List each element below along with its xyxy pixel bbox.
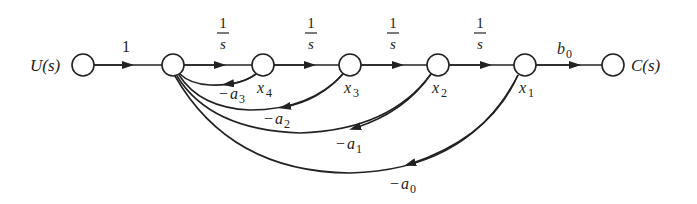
svg-text:2: 2 <box>284 117 290 131</box>
gain-input: 1 <box>122 38 130 55</box>
input-label: U(s) <box>30 56 61 75</box>
node-x3 <box>339 54 361 76</box>
output-label: C(s) <box>631 56 661 75</box>
svg-text:1: 1 <box>356 142 362 156</box>
svg-text:a: a <box>275 110 283 127</box>
integrator-labels: 1 s 1 s 1 s 1 s <box>217 15 486 52</box>
svg-text:s: s <box>308 36 314 52</box>
svg-text:1: 1 <box>219 15 227 31</box>
feedback-label-a0: − a 0 <box>390 175 416 196</box>
svg-text:0: 0 <box>566 47 572 61</box>
state-labels: x 4 x 3 x 2 x 1 <box>256 79 534 100</box>
diagram-canvas: U(s) C(s) 1 1 s 1 s 1 s 1 s b 0 <box>0 0 697 204</box>
node-x2 <box>427 54 449 76</box>
svg-text:x: x <box>431 79 439 96</box>
svg-text:a: a <box>401 175 409 192</box>
state-x4: x 4 <box>256 79 272 100</box>
svg-text:s: s <box>390 36 396 52</box>
svg-text:b: b <box>557 40 565 57</box>
svg-text:1: 1 <box>307 15 315 31</box>
svg-text:−: − <box>390 175 399 192</box>
state-x3: x 3 <box>343 79 359 100</box>
svg-text:−: − <box>219 85 228 102</box>
svg-text:x: x <box>518 79 526 96</box>
node-x1 <box>514 54 536 76</box>
svg-text:3: 3 <box>239 92 245 106</box>
svg-text:a: a <box>230 85 238 102</box>
feedback-labels: − a 3 − a 2 − a 1 − a 0 <box>219 85 416 196</box>
svg-text:s: s <box>220 36 226 52</box>
node-output <box>602 54 624 76</box>
state-x1: x 1 <box>518 79 534 100</box>
svg-text:2: 2 <box>441 86 447 100</box>
signal-flow-graph: U(s) C(s) 1 1 s 1 s 1 s 1 s b 0 <box>0 0 697 204</box>
feedback-label-a2: − a 2 <box>264 110 290 131</box>
output-gain-label: b 0 <box>557 40 572 61</box>
svg-text:−: − <box>336 135 345 152</box>
svg-text:−: − <box>264 110 273 127</box>
svg-text:x: x <box>343 79 351 96</box>
svg-text:3: 3 <box>353 86 359 100</box>
svg-text:1: 1 <box>528 86 534 100</box>
svg-text:0: 0 <box>410 182 416 196</box>
feedback-label-a1: − a 1 <box>336 135 362 156</box>
svg-text:s: s <box>477 36 483 52</box>
svg-text:1: 1 <box>476 15 484 31</box>
svg-text:1: 1 <box>389 15 397 31</box>
node-input <box>72 54 94 76</box>
node-sum <box>162 54 184 76</box>
svg-text:x: x <box>256 79 264 96</box>
svg-text:4: 4 <box>266 86 272 100</box>
feedback-label-a3: − a 3 <box>219 85 245 106</box>
node-x4 <box>252 54 274 76</box>
svg-text:a: a <box>347 135 355 152</box>
state-x2: x 2 <box>431 79 447 100</box>
